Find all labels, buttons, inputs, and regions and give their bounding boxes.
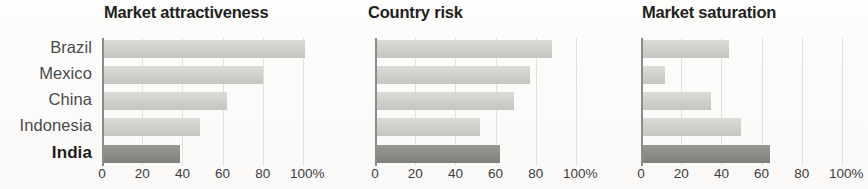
bar-indonesia — [377, 118, 480, 136]
x-tick-label-40: 40 — [175, 166, 190, 181]
plot-area — [375, 38, 580, 166]
gridline-100 — [576, 38, 577, 166]
chart-panel-1: Market attractiveness020406080100% — [96, 0, 311, 189]
bar-china — [643, 92, 711, 110]
x-tick-label-20: 20 — [674, 166, 689, 181]
x-tick-label-20: 20 — [135, 166, 150, 181]
bar-china — [377, 92, 514, 110]
bar-indonesia — [104, 118, 200, 136]
x-tick-label-80: 80 — [794, 166, 809, 181]
x-tick-label-80: 80 — [528, 166, 543, 181]
x-tick-label-0: 0 — [98, 166, 106, 181]
value-axis: 020406080100% — [641, 166, 868, 188]
value-axis: 020406080100% — [102, 166, 333, 188]
bar-india — [104, 145, 180, 163]
x-tick-label-60: 60 — [215, 166, 230, 181]
bar-row — [643, 40, 729, 58]
bar-indonesia — [643, 118, 741, 136]
bar-mexico — [643, 66, 665, 84]
bar-brazil — [377, 40, 552, 58]
panel-title: Market attractiveness — [104, 3, 269, 22]
bar-brazil — [643, 40, 729, 58]
value-axis: 020406080100% — [375, 166, 606, 188]
x-tick-label-100: 100% — [829, 166, 864, 181]
bar-row — [643, 92, 711, 110]
bar-row — [104, 92, 227, 110]
bar-row — [377, 145, 500, 163]
category-label-china: China — [0, 91, 92, 108]
x-tick-label-20: 20 — [408, 166, 423, 181]
gridline-100 — [842, 38, 843, 166]
x-tick-label-60: 60 — [754, 166, 769, 181]
x-tick-label-100: 100% — [563, 166, 598, 181]
x-tick-label-40: 40 — [714, 166, 729, 181]
bar-india — [377, 145, 500, 163]
bar-china — [104, 92, 227, 110]
bar-mexico — [104, 66, 263, 84]
x-tick-label-100: 100% — [290, 166, 325, 181]
chart-panel-3: Market saturation020406080100% — [634, 0, 849, 189]
bar-row — [643, 118, 741, 136]
x-tick-label-0: 0 — [371, 166, 379, 181]
bar-brazil — [104, 40, 305, 58]
bar-row — [377, 118, 480, 136]
bar-row — [643, 66, 665, 84]
x-tick-label-40: 40 — [448, 166, 463, 181]
bar-row — [377, 92, 514, 110]
x-tick-label-60: 60 — [488, 166, 503, 181]
chart-panel-2: Country risk020406080100% — [368, 0, 583, 189]
gridline-80 — [802, 38, 803, 166]
bar-row — [104, 145, 180, 163]
bar-chart-figure: BrazilMexicoChinaIndonesiaIndia Market a… — [0, 0, 868, 189]
category-label-india: India — [0, 144, 92, 161]
bar-row — [104, 66, 263, 84]
bar-india — [643, 145, 770, 163]
x-tick-label-0: 0 — [637, 166, 645, 181]
bar-mexico — [377, 66, 530, 84]
category-label-brazil: Brazil — [0, 39, 92, 56]
bar-row — [104, 118, 200, 136]
plot-area — [641, 38, 846, 166]
category-label-indonesia: Indonesia — [0, 117, 92, 134]
panel-title: Country risk — [368, 3, 463, 22]
category-axis: BrazilMexicoChinaIndonesiaIndia — [0, 38, 96, 166]
bar-row — [643, 145, 770, 163]
bar-row — [104, 40, 305, 58]
x-tick-label-80: 80 — [255, 166, 270, 181]
category-label-mexico: Mexico — [0, 65, 92, 82]
plot-area — [102, 38, 307, 166]
panel-title: Market saturation — [642, 3, 776, 22]
bar-row — [377, 66, 530, 84]
bar-row — [377, 40, 552, 58]
